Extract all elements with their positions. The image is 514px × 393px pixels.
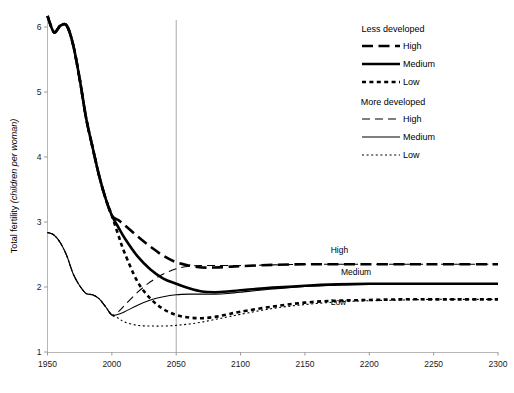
series-line-more-developed-medium xyxy=(48,232,499,315)
y-tick-label: 4 xyxy=(37,152,42,162)
chart-canvas: 123456 Total fertility (children per wom… xyxy=(0,0,514,393)
x-tick-label: 2100 xyxy=(231,359,250,369)
y-axis-title-unit: (children per woman) xyxy=(9,119,19,204)
y-tick-label: 5 xyxy=(37,87,42,97)
legend-label-more-developed-high: High xyxy=(403,114,422,124)
y-tick-label: 3 xyxy=(37,217,42,227)
y-tick-label: 1 xyxy=(37,347,42,357)
annotation-medium: Medium xyxy=(341,267,371,277)
legend-group-heading: Less developed xyxy=(361,24,424,34)
legend-label-more-developed-medium: Medium xyxy=(403,132,435,142)
x-tick-label: 1950 xyxy=(38,359,57,369)
x-tick-label: 2200 xyxy=(360,359,379,369)
x-tick-label: 2050 xyxy=(167,359,186,369)
annotation-high: High xyxy=(331,245,349,255)
inchart-annotations: HighMediumLow xyxy=(331,245,372,307)
legend: Less developedHighMediumLowMore develope… xyxy=(361,24,435,160)
x-tick-label: 2000 xyxy=(102,359,121,369)
x-axis: 19502000205021002150220022502300 xyxy=(38,352,508,369)
legend-group-heading: More developed xyxy=(361,97,426,107)
y-axis-tick-labels: 123456 xyxy=(37,22,42,357)
x-tick-label: 2250 xyxy=(424,359,443,369)
legend-label-more-developed-low: Low xyxy=(403,150,420,160)
x-tick-label: 2150 xyxy=(295,359,314,369)
svg-text:Total fertility: Total fertility (children per woman) xyxy=(9,119,19,254)
y-axis-ticks xyxy=(44,27,48,352)
legend-label-less-developed-low: Low xyxy=(403,77,420,87)
legend-label-less-developed-medium: Medium xyxy=(403,59,435,69)
fertility-projection-chart: 123456 Total fertility (children per wom… xyxy=(0,0,514,393)
legend-label-less-developed-high: High xyxy=(403,41,422,51)
annotation-low: Low xyxy=(331,297,347,307)
series-line-more-developed-high xyxy=(48,232,499,315)
y-axis: 123456 Total fertility (children per wom… xyxy=(9,20,48,357)
y-axis-title-main: Total fertility xyxy=(9,205,19,253)
x-axis-tick-labels: 19502000205021002150220022502300 xyxy=(38,359,508,369)
x-tick-label: 2300 xyxy=(489,359,508,369)
series-line-less-developed-medium xyxy=(48,16,499,292)
y-tick-label: 6 xyxy=(37,22,42,32)
y-axis-title: Total fertility (children per woman) xyxy=(9,119,19,254)
y-tick-label: 2 xyxy=(37,282,42,292)
series-line-more-developed-low xyxy=(48,232,499,326)
